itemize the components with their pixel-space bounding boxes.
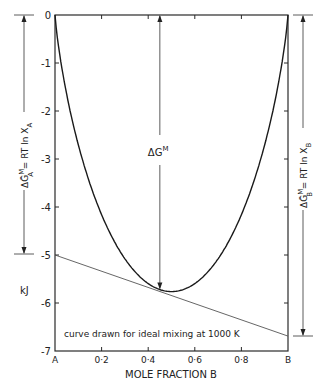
arrow-up-icon [22,15,27,22]
center-dimension: ΔGM [148,15,169,290]
x-tick-label: B [285,355,291,365]
chart-canvas: 0-1-2-3-4-5-6-7A0·20·40·60·8B ΔGM ΔḠMA =… [0,0,328,391]
mixing-curve [55,15,288,292]
y-tick-label: -3 [41,154,51,165]
arrow-up-icon [157,15,162,22]
arrow-down-icon [22,247,27,254]
x-tick-label: 0·2 [94,355,108,365]
y-tick-label: -4 [41,202,51,213]
x-tick-label: 0·4 [141,355,156,365]
arrow-down-icon [301,329,306,336]
axis-ticks: 0-1-2-3-4-5-6-7A0·20·40·60·8B [41,10,291,365]
y-tick-label: -6 [41,298,51,309]
tangent-line [55,255,288,336]
y-tick-label: -7 [41,346,51,357]
x-tick-label: 0·6 [188,355,203,365]
unit-label: kJ [20,285,29,296]
ideal-mixing-note: curve drawn for ideal mixing at 1000 K [64,329,241,339]
y-tick-label: -1 [41,58,51,69]
y-tick-label: -2 [41,106,51,117]
arrow-up-icon [301,15,306,22]
x-axis-title: MOLE FRACTION B [125,369,217,380]
left-dimension: ΔḠMA = RT ln XA [14,15,35,254]
y-tick-label: -5 [41,250,51,261]
y-tick-label: 0 [45,10,51,21]
right-partial-molar-label: ΔḠMB = RT ln XB [297,143,314,208]
x-tick-label: A [52,355,59,365]
delta-g-mix-label: ΔGM [148,145,169,158]
left-partial-molar-label: ΔḠMA = RT ln XA [18,123,35,188]
right-dimension: ΔḠMB = RT ln XB [293,15,314,336]
x-tick-label: 0·8 [234,355,249,365]
